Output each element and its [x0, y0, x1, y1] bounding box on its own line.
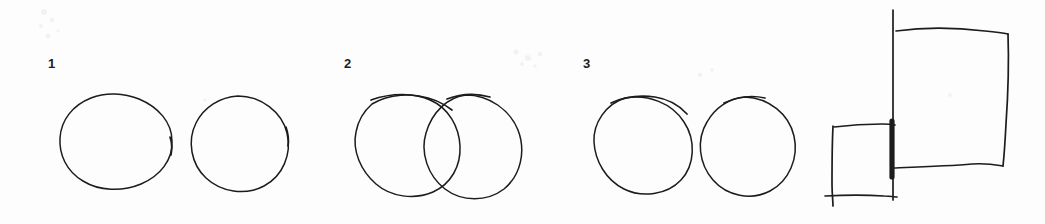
figure-group-3 [594, 96, 795, 196]
rectangle-small-bottom [825, 195, 897, 197]
rectangle-large-bottom [893, 164, 1003, 168]
rectangle-large-right [1003, 34, 1008, 166]
circle-2b [424, 95, 522, 199]
circle-1a [60, 94, 172, 189]
rectangle-small-left [832, 126, 833, 206]
figure-label-3: 3 [583, 57, 590, 70]
circle-2a [355, 95, 460, 196]
figure-group-2 [355, 95, 522, 199]
circle-1b [191, 96, 288, 192]
rectangle-small-top [834, 124, 895, 127]
figure-group-1 [60, 94, 288, 192]
rectangle-large-top [896, 28, 1008, 34]
figure-group-4 [825, 10, 1008, 206]
figure-label-1: 1 [48, 57, 55, 70]
circle-3b [700, 97, 795, 196]
circle-3a [594, 97, 692, 194]
figure-label-2: 2 [344, 57, 351, 70]
paper-noise [39, 9, 952, 102]
handdrawn-shapes-canvas: .ink { fill: none; stroke: #1d1b1b; stro… [0, 0, 1045, 224]
sketch-sheet: .ink { fill: none; stroke: #1d1b1b; stro… [0, 0, 1045, 224]
